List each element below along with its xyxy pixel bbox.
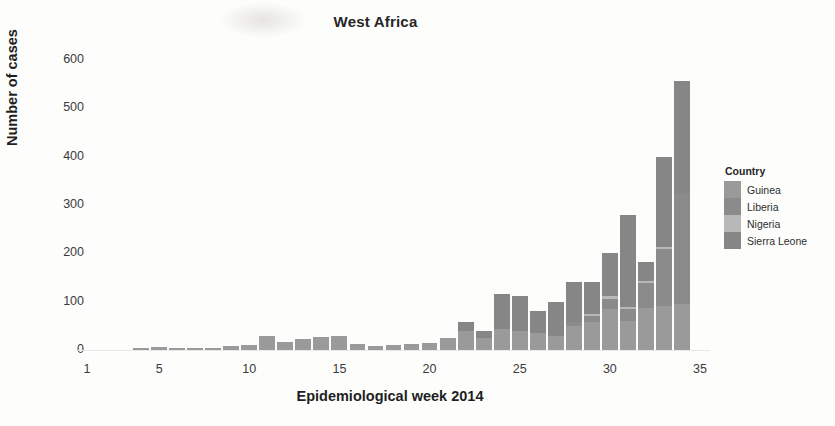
legend-entries: GuineaLiberiaNigeriaSierra Leone	[724, 181, 832, 249]
legend-swatch-icon	[724, 181, 741, 198]
bar-segment-liberia	[602, 299, 618, 310]
bar-segment-guinea	[205, 348, 221, 350]
legend-swatch-icon	[724, 198, 741, 215]
bar-week-29	[584, 282, 600, 350]
bar-week-31	[620, 215, 636, 350]
bar-week-7	[187, 348, 203, 350]
bar-segment-liberia	[638, 283, 654, 308]
bar-segment-sierra-leone	[602, 253, 618, 296]
bar-week-9	[223, 346, 239, 350]
bar-week-13	[295, 339, 311, 350]
y-tick-label: 300	[38, 197, 84, 211]
x-tick-label: 5	[139, 362, 179, 376]
legend-item-guinea[interactable]: Guinea	[724, 181, 832, 198]
bar-segment-guinea	[259, 336, 275, 350]
bar-week-19	[404, 344, 420, 350]
bar-week-33	[656, 157, 672, 350]
bar-week-27	[548, 302, 564, 350]
chart-title-text: West Africa	[334, 13, 418, 30]
legend-swatch-icon	[724, 215, 741, 232]
bar-segment-liberia	[620, 309, 636, 321]
bar-segment-guinea	[548, 336, 564, 350]
bar-week-21	[440, 338, 456, 350]
bar-segment-guinea	[223, 346, 239, 350]
legend-item-liberia[interactable]: Liberia	[724, 198, 832, 215]
bar-segment-sierra-leone	[548, 302, 564, 336]
bar-segment-sierra-leone	[566, 282, 582, 322]
bar-segment-guinea	[187, 348, 203, 350]
y-tick-label: 500	[38, 100, 84, 114]
bar-week-5	[151, 347, 167, 350]
bar-segment-guinea	[620, 321, 636, 350]
bar-segment-guinea	[602, 309, 618, 350]
x-tick-label: 35	[680, 362, 720, 376]
y-axis-label: Number of cases	[4, 0, 20, 146]
bar-segment-guinea	[422, 343, 438, 350]
bar-segment-guinea	[566, 326, 582, 350]
bar-segment-guinea	[350, 344, 366, 350]
x-tick-label: 20	[410, 362, 450, 376]
bar-week-6	[169, 348, 185, 350]
bar-segment-sierra-leone	[458, 322, 474, 331]
bar-segment-guinea	[656, 306, 672, 350]
bar-week-26	[530, 311, 546, 350]
bar-week-16	[350, 344, 366, 350]
bar-segment-sierra-leone	[530, 311, 546, 332]
bar-segment-guinea	[440, 338, 456, 350]
bar-segment-sierra-leone	[512, 296, 528, 331]
y-tick-label: 100	[38, 294, 84, 308]
bar-segment-sierra-leone	[584, 282, 600, 314]
bar-segment-liberia	[656, 249, 672, 306]
plot-area	[87, 40, 707, 352]
bar-week-14	[313, 337, 329, 350]
bar-segment-guinea	[169, 348, 185, 350]
bar-segment-guinea	[151, 347, 167, 350]
legend-item-nigeria[interactable]: Nigeria	[724, 215, 832, 232]
bar-segment-sierra-leone	[620, 215, 636, 307]
bar-week-25	[512, 296, 528, 350]
bar-segment-guinea	[331, 336, 347, 351]
legend-swatch-icon	[724, 232, 741, 249]
bar-week-23	[476, 331, 492, 350]
bar-segment-guinea	[277, 342, 293, 350]
bar-segment-sierra-leone	[656, 157, 672, 246]
bar-week-17	[368, 346, 384, 350]
bar-week-34	[674, 81, 690, 350]
y-tick-label: 0	[38, 342, 84, 356]
bar-week-8	[205, 348, 221, 350]
legend-label: Guinea	[747, 184, 781, 196]
legend: Country GuineaLiberiaNigeriaSierra Leone	[724, 165, 832, 249]
bar-segment-guinea	[368, 346, 384, 350]
legend-label: Nigeria	[747, 218, 780, 230]
x-tick-label: 30	[590, 362, 630, 376]
chart-figure: West Africa Number of cases 010020030040…	[0, 0, 835, 426]
bar-segment-guinea	[241, 345, 257, 350]
bar-segment-guinea	[133, 348, 149, 350]
bar-segment-sierra-leone	[674, 81, 690, 194]
bar-segment-liberia	[674, 194, 690, 304]
bar-week-15	[331, 336, 347, 351]
y-tick-label: 200	[38, 245, 84, 259]
bar-segment-guinea	[476, 338, 492, 350]
bar-week-4	[133, 348, 149, 350]
bar-segment-guinea	[313, 337, 329, 350]
bar-week-28	[566, 282, 582, 350]
bar-segment-guinea	[404, 344, 420, 350]
legend-item-sierra-leone[interactable]: Sierra Leone	[724, 232, 832, 249]
legend-title: Country	[724, 165, 832, 177]
x-tick-label: 15	[319, 362, 359, 376]
bar-segment-guinea	[674, 304, 690, 350]
bar-week-11	[259, 336, 275, 350]
bar-week-20	[422, 343, 438, 350]
bar-segment-sierra-leone	[638, 262, 654, 281]
bar-segment-guinea	[458, 331, 474, 350]
bar-week-24	[494, 294, 510, 350]
x-tick-label: 25	[500, 362, 540, 376]
x-tick-label: 10	[229, 362, 269, 376]
bar-week-30	[602, 253, 618, 350]
bar-segment-sierra-leone	[494, 294, 510, 329]
bar-segment-guinea	[512, 331, 528, 350]
bar-segment-guinea	[295, 339, 311, 350]
bar-segment-guinea	[584, 322, 600, 350]
y-tick-label: 600	[38, 52, 84, 66]
